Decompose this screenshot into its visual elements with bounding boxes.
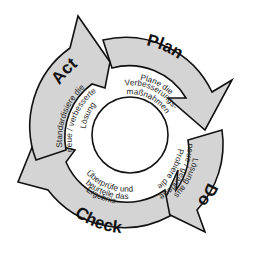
center-circle: [92, 97, 168, 173]
pdca-cycle-diagram: Plan Do Check Act Plane die Verbesserung…: [0, 0, 258, 262]
